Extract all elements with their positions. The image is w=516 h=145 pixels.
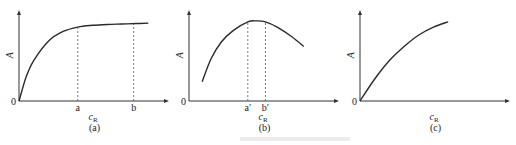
panel-label: (c) [430, 122, 441, 134]
y-axis-label: A [174, 51, 185, 59]
panel-c: 0AcR(c) [345, 10, 510, 134]
figure-caption-faint [240, 137, 350, 141]
x-axis-arrow-icon [164, 99, 169, 103]
x-tick-label: b [131, 102, 136, 113]
origin-label: 0 [181, 96, 186, 107]
x-axis-arrow-icon [334, 99, 339, 103]
series-line-A [19, 23, 148, 101]
x-tick-label: b′ [262, 102, 269, 113]
figure-canvas: 0AcR(a)ab0AcR(b)a′b′0AcR(c) [0, 0, 516, 145]
y-axis-label: A [345, 51, 356, 59]
x-axis-arrow-icon [505, 99, 510, 103]
y-axis-label: A [4, 51, 15, 59]
origin-label: 0 [352, 96, 357, 107]
x-tick-label: a′ [244, 102, 251, 113]
y-axis-arrow-icon [17, 10, 21, 15]
y-axis-arrow-icon [187, 10, 191, 15]
panel-b: 0AcR(b)a′b′ [174, 10, 339, 134]
origin-label: 0 [11, 96, 16, 107]
series-line-A [360, 22, 448, 101]
panel-label: (b) [259, 122, 271, 134]
panel-a: 0AcR(a)ab [4, 10, 169, 134]
y-axis-arrow-icon [358, 10, 362, 15]
series-line-A [202, 21, 303, 82]
x-tick-label: a [76, 102, 81, 113]
panel-label: (a) [89, 122, 100, 134]
